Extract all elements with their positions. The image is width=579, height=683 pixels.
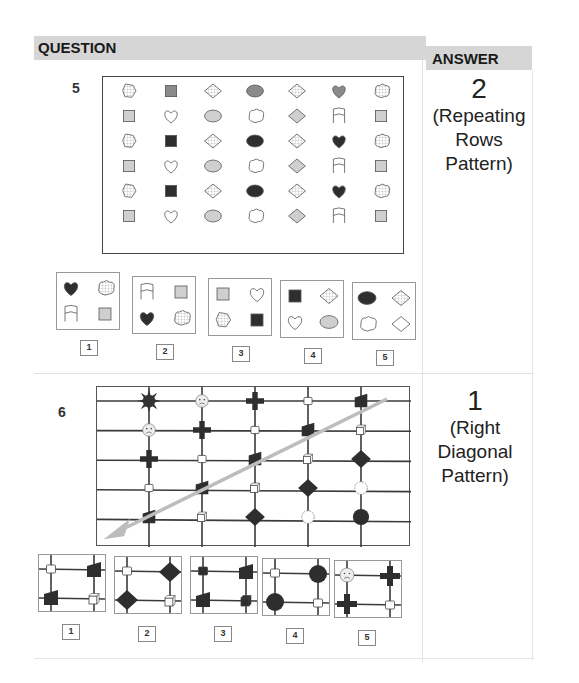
shape-matrix-grid [103, 77, 405, 255]
diamond-hatched-icon [289, 134, 306, 148]
pentagon-hatched-icon [216, 313, 230, 327]
square-dark-icon [165, 185, 176, 196]
question-5-answer: 2 (Repeating Rows Pattern) [424, 74, 534, 176]
small-square-icon [314, 599, 323, 607]
cloud-hatched-icon [99, 281, 115, 296]
diamond-hatched-icon [205, 84, 222, 98]
pentagon-hatched-icon [123, 184, 136, 197]
node-grid-with-arrow [97, 387, 411, 547]
trapezoid-icon [355, 394, 368, 408]
option-2-label[interactable]: 2 [156, 344, 174, 360]
trapezoid-icon [44, 590, 58, 605]
circle-icon [266, 593, 284, 611]
heart-outline-icon [165, 211, 178, 223]
cloud-outline-icon [249, 159, 264, 173]
cube-dark-icon [241, 596, 251, 607]
option-1-label[interactable]: 1 [62, 624, 80, 640]
small-square-icon [47, 565, 56, 573]
ellipse-light-icon [205, 160, 222, 172]
diamond-icon [116, 590, 138, 610]
cloud-icon [302, 511, 315, 524]
heart-dark-icon [64, 283, 77, 296]
option-3-label[interactable]: 3 [232, 346, 250, 362]
ellipse-dark-icon [358, 292, 376, 305]
banner-outline-icon [333, 158, 344, 173]
small-square-icon [198, 455, 206, 462]
cloud-hatched-icon [375, 184, 390, 198]
option-3-label[interactable]: 3 [214, 626, 232, 642]
trapezoid-icon [87, 562, 101, 577]
answer-explanation-line: (Right [420, 416, 530, 440]
option-1-label[interactable]: 1 [80, 340, 98, 356]
cloud-hatched-icon [375, 84, 390, 98]
square-gray-icon [165, 85, 176, 96]
diamond-hatched-icon [205, 184, 222, 198]
worksheet-table: QUESTION ANSWER 5 2 (Repeating Rows Patt… [34, 36, 548, 662]
answer-column-header: ANSWER [426, 46, 532, 70]
square-light-icon [375, 110, 386, 121]
cube-icon [304, 454, 313, 463]
banner-outline-icon [65, 305, 77, 321]
row-divider [34, 373, 534, 374]
circle-icon [353, 509, 369, 525]
square-light-icon [99, 308, 111, 320]
answer-number: 2 [424, 74, 534, 104]
option-5-figure[interactable] [334, 560, 402, 618]
cube-icon [89, 594, 99, 605]
diamond-light-icon [289, 209, 306, 223]
square-dark-icon [289, 290, 301, 302]
cube-icon [198, 512, 207, 521]
ellipse-light-icon [205, 110, 222, 122]
option-4-label[interactable]: 4 [304, 348, 322, 364]
option-2-figure[interactable] [132, 276, 196, 334]
cloud-outline-icon [361, 317, 377, 332]
sad-face-icon [143, 424, 156, 437]
column-divider [422, 60, 423, 662]
option-3-figure[interactable] [190, 556, 258, 614]
square-light-icon [123, 160, 134, 171]
diamond-hatched-icon [289, 84, 306, 98]
option-1-figure[interactable] [38, 554, 106, 612]
cube-icon [165, 596, 175, 607]
answer-explanation-line: Diagonal [420, 440, 530, 464]
cloud-hatched-icon [375, 134, 390, 148]
square-dark-icon [251, 314, 263, 326]
small-square-icon [304, 397, 312, 404]
sad-face-icon [340, 568, 354, 582]
option-2-label[interactable]: 2 [138, 626, 156, 642]
option-5-figure[interactable] [352, 282, 416, 340]
option-4-figure[interactable] [262, 558, 330, 616]
option-3-figure[interactable] [208, 278, 272, 336]
pentagon-hatched-icon [123, 84, 136, 97]
cross-icon [193, 421, 211, 439]
diamond-icon [298, 479, 318, 497]
ellipse-light-icon [320, 316, 338, 329]
pentagon-hatched-icon [123, 134, 136, 147]
small-square-icon [386, 601, 395, 609]
answer-number: 1 [420, 386, 530, 416]
ellipse-light-icon [205, 210, 222, 222]
option-1-figure[interactable] [56, 272, 120, 330]
cross-icon [140, 450, 158, 468]
banner-outline-icon [333, 208, 344, 223]
ellipse-dark-icon [247, 135, 264, 147]
option-5-label[interactable]: 5 [376, 350, 394, 366]
trapezoid-icon [239, 564, 253, 579]
question-number-6: 6 [58, 404, 66, 420]
answer-explanation-line: Pattern) [424, 152, 534, 176]
option-5-label[interactable]: 5 [358, 630, 376, 646]
cross-icon [337, 594, 357, 614]
small-square-icon [251, 426, 259, 433]
option-2-figure[interactable] [114, 556, 182, 614]
answer-explanation-line: Rows [424, 128, 534, 152]
banner-outline-icon [141, 283, 153, 299]
cloud-outline-icon [249, 109, 264, 123]
small-square-icon [123, 567, 132, 575]
diamond-light-icon [289, 109, 306, 123]
option-4-figure[interactable] [280, 280, 344, 338]
heart-outline-icon [288, 317, 301, 330]
trapezoid-icon [196, 592, 210, 607]
banner-outline-icon [333, 108, 344, 123]
option-4-label[interactable]: 4 [286, 628, 304, 644]
ellipse-gray-icon [247, 85, 264, 97]
